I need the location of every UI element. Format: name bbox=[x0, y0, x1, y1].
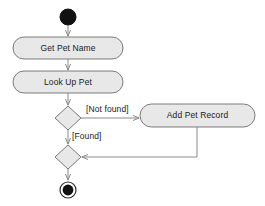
action-node-add-pet-record[interactable]: Add Pet Record bbox=[140, 104, 255, 127]
final-node[interactable] bbox=[60, 182, 76, 198]
add-pet-record-label: Add Pet Record bbox=[167, 110, 229, 120]
initial-node[interactable] bbox=[60, 9, 76, 25]
activity-diagram-canvas: Get Pet Name Look Up Pet Add Pet Record bbox=[0, 0, 265, 206]
look-up-pet-label: Look Up Pet bbox=[44, 77, 92, 87]
get-pet-name-label: Get Pet Name bbox=[40, 43, 95, 53]
diagram-svg: Get Pet Name Look Up Pet Add Pet Record bbox=[0, 0, 265, 206]
action-node-get-pet-name[interactable]: Get Pet Name bbox=[13, 37, 123, 59]
final-node-core bbox=[63, 185, 74, 196]
guard-label-found: [Found] bbox=[72, 131, 102, 141]
guard-label-layer: [Not found] [Found] bbox=[72, 104, 129, 141]
guard-label-not-found: [Not found] bbox=[86, 104, 129, 114]
action-node-look-up-pet[interactable]: Look Up Pet bbox=[13, 71, 123, 93]
node-layer: Get Pet Name Look Up Pet Add Pet Record bbox=[13, 9, 255, 198]
merge-node[interactable] bbox=[55, 145, 81, 169]
decision-node[interactable] bbox=[55, 106, 81, 130]
